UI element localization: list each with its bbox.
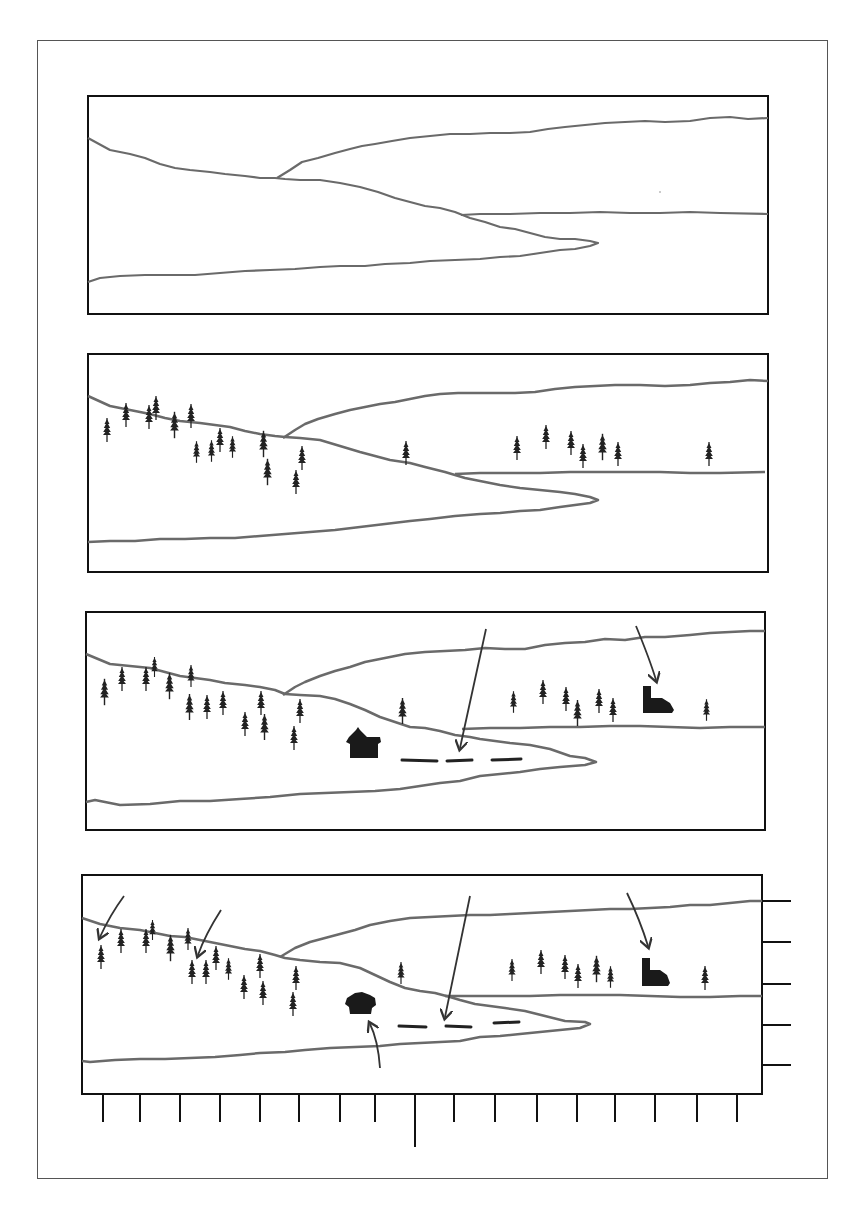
panel-1-frame xyxy=(88,96,768,314)
panel-3-frame xyxy=(86,612,765,830)
right-ticks xyxy=(762,901,791,1065)
panel-1 xyxy=(88,96,768,314)
boat-dock-dashes xyxy=(402,759,521,761)
panel-2 xyxy=(88,354,768,572)
panel-3 xyxy=(86,612,765,830)
sketch-canvas xyxy=(0,0,865,1213)
panel-4 xyxy=(82,875,791,1147)
bottom-ticks xyxy=(103,1094,737,1147)
